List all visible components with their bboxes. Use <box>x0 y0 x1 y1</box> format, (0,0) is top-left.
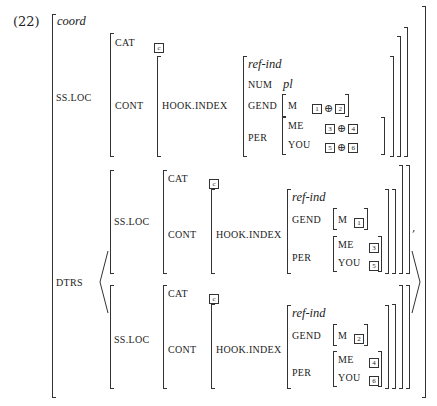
dtr1-cat-label: CAT <box>168 173 188 184</box>
dtr2-index-left-bracket <box>287 305 291 389</box>
dtr1-index-left-bracket <box>287 189 291 274</box>
mother-me-value: 3⊕4 <box>325 118 358 137</box>
dtr2-hook-label: HOOK.INDEX <box>216 344 282 355</box>
dtr2-right-bracket <box>406 285 410 389</box>
mother-you-label: YOU <box>288 139 311 150</box>
mother-ssloc-left-bracket <box>110 33 114 157</box>
dtr1-ssloc-left-bracket <box>163 170 167 274</box>
mother-per-right-bracket <box>381 117 385 155</box>
mother-index-left-bracket <box>243 56 247 157</box>
dtr1-m-label: M <box>338 214 347 225</box>
avm-type: coord <box>57 14 86 29</box>
dtrs-list-right-angle <box>410 250 422 314</box>
dtr2-m-label: M <box>338 330 347 341</box>
dtr2-cont-label: CONT <box>168 344 196 355</box>
mother-me-label: ME <box>288 120 304 131</box>
mother-gend-right-bracket <box>345 94 349 117</box>
dtr1-cont-label: CONT <box>168 229 196 240</box>
mother-cat-label: CAT <box>115 37 135 48</box>
mother-gend-left-bracket <box>282 94 286 117</box>
list-separator: , <box>412 221 416 234</box>
mother-per-left-bracket <box>282 117 286 155</box>
dtr1-me-label: ME <box>338 239 354 250</box>
mother-cont-left-bracket <box>157 56 161 157</box>
dtr2-gend-right-bracket <box>364 324 368 346</box>
dtr2-cat-label: CAT <box>168 288 188 299</box>
dtr2-cont-left-bracket <box>211 304 215 389</box>
dtr1-index-right-bracket <box>385 189 389 274</box>
dtr1-gend-label: GEND <box>292 214 321 225</box>
dtr2-you-label: YOU <box>338 372 361 383</box>
mother-you-value: 5⊕6 <box>325 137 358 156</box>
outer-left-bracket <box>52 14 56 398</box>
dtr2-you-value: 6 <box>369 370 379 389</box>
dtr2-m-value: 2 <box>354 328 364 347</box>
dtr1-me-value: 3 <box>369 237 379 256</box>
mother-index-right-bracket <box>390 56 394 157</box>
dtr1-you-label: YOU <box>338 257 361 268</box>
dtr1-index-type: ref-ind <box>292 190 326 205</box>
dtr1-m-value: 1 <box>354 212 364 231</box>
mother-cont-right-bracket <box>397 36 401 157</box>
mother-index-type: ref-ind <box>248 57 282 72</box>
dtrs-list-left-angle <box>98 250 110 314</box>
dtr2-me-value: 4 <box>369 352 379 371</box>
mother-cat-tag: c <box>154 37 164 56</box>
dtr1-gend-left-bracket <box>333 208 337 230</box>
dtr2-index-right-bracket <box>385 305 389 389</box>
mother-per-label: PER <box>248 132 267 143</box>
dtr1-ssloc-right-bracket <box>399 165 403 274</box>
mother-ssloc-right-bracket <box>404 27 408 157</box>
mother-gend-label: GEND <box>248 100 277 111</box>
dtr1-cont-left-bracket <box>211 189 215 274</box>
dtr1-gend-right-bracket <box>364 208 368 230</box>
dtr2-per-label: PER <box>292 367 311 378</box>
dtr1-cont-right-bracket <box>392 189 396 274</box>
dtr1-right-bracket <box>406 165 410 274</box>
example-number: (22) <box>13 14 40 29</box>
dtr2-ssloc-right-bracket <box>399 285 403 389</box>
dtr2-per-left-bracket <box>333 351 337 387</box>
dtr2-gend-left-bracket <box>333 324 337 346</box>
mother-num-label: NUM <box>248 79 272 90</box>
mother-cont-label: CONT <box>115 100 143 111</box>
mother-m-label: M <box>288 100 297 111</box>
mother-m-value: 1⊕2 <box>312 98 345 117</box>
dtrs-label: DTRS <box>56 277 83 288</box>
dtr2-ss-loc-label: SS.LOC <box>114 334 149 345</box>
dtr1-you-value: 5 <box>369 255 379 274</box>
dtr2-gend-label: GEND <box>292 330 321 341</box>
dtr2-index-type: ref-ind <box>292 306 326 321</box>
mother-hook-label: HOOK.INDEX <box>162 100 228 111</box>
dtr2-cont-right-bracket <box>392 304 396 389</box>
dtr2-ssloc-left-bracket <box>163 285 167 389</box>
dtr1-per-left-bracket <box>333 236 337 272</box>
outer-right-bracket <box>422 6 426 398</box>
dtr1-hook-label: HOOK.INDEX <box>216 229 282 240</box>
dtr1-ss-loc-label: SS.LOC <box>114 216 149 227</box>
mother-num-value: pl <box>283 77 293 92</box>
dtr1-per-label: PER <box>292 252 311 263</box>
mother-ss-loc-label: SS.LOC <box>56 92 91 103</box>
dtr2-me-label: ME <box>338 354 354 365</box>
